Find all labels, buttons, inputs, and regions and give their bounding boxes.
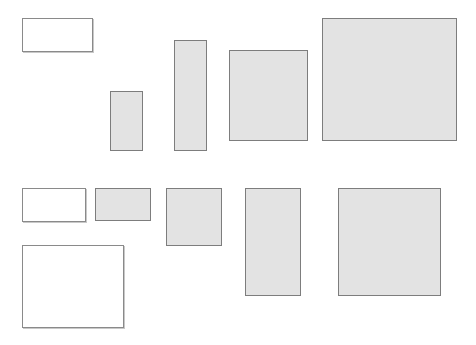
diagram-graphics bbox=[0, 0, 476, 345]
